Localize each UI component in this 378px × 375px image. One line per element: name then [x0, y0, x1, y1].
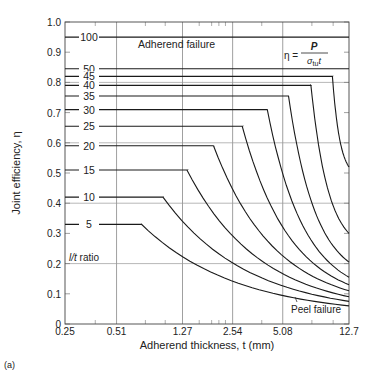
curve-label: 35 — [83, 90, 95, 102]
curve-label: 100 — [80, 31, 98, 43]
curve-lt-10 — [65, 197, 349, 301]
x-tick-label: 2.54 — [223, 326, 243, 337]
x-tick-label: 0.25 — [55, 326, 75, 337]
x-tick-label: 12.7 — [339, 326, 359, 337]
plot-frame — [65, 22, 349, 324]
y-tick-label: 0.9 — [47, 47, 61, 58]
x-tick-labels: 0.250.511.272.545.0812.7 — [55, 326, 359, 337]
curve-label: 30 — [83, 104, 95, 116]
panel-label: (a) — [4, 360, 15, 370]
y-tick-label: 1.0 — [47, 17, 61, 28]
curve-lt-30 — [65, 110, 349, 278]
y-tick-label: 0.2 — [47, 259, 61, 270]
x-axis-title: Adherend thickness, t (mm) — [140, 339, 275, 351]
curve-lt-35 — [65, 96, 349, 262]
y-tick-label: 0.1 — [47, 289, 61, 300]
x-tick-label: 0.51 — [107, 326, 127, 337]
curve-label: 10 — [83, 191, 95, 203]
curve-lt-5 — [65, 224, 349, 306]
curve-label: 15 — [83, 164, 95, 176]
peel-failure-label: Peel failure — [291, 304, 341, 315]
efficiency-formula: η = P σtut — [284, 41, 328, 67]
y-tick-label: 0.3 — [47, 228, 61, 239]
joint-efficiency-chart: 1005045403530252015105 00.10.20.30.40.50… — [0, 0, 378, 375]
y-axis-title: Joint efficiency, η — [10, 131, 22, 214]
curve-lt-25 — [65, 126, 349, 285]
svg-text:η =: η = — [284, 50, 298, 61]
curve-label: 20 — [83, 140, 95, 152]
grid-lines — [65, 22, 349, 324]
curve-label: 25 — [83, 120, 95, 132]
x-tick-label: 5.08 — [273, 326, 293, 337]
y-tick-label: 0.7 — [47, 108, 61, 119]
lt-ratio-label: l/t ratio — [69, 252, 99, 263]
curve-lt-40 — [65, 85, 349, 233]
curve-series: 1005045403530252015105 — [65, 31, 349, 306]
svg-text:P: P — [311, 41, 318, 52]
y-tick-label: 0.5 — [47, 168, 61, 179]
axis-ticks — [65, 22, 349, 324]
y-tick-label: 0.8 — [47, 77, 61, 88]
curve-lt-45 — [65, 76, 349, 167]
y-tick-label: 0.4 — [47, 198, 61, 209]
formula-denominator: σtut — [307, 56, 321, 67]
x-tick-label: 1.27 — [173, 326, 193, 337]
curve-lt-20 — [65, 146, 349, 291]
curve-label: 5 — [86, 218, 92, 230]
adherend-failure-label: Adherend failure — [138, 38, 215, 50]
y-tick-labels: 00.10.20.30.40.50.60.70.80.91.0 — [47, 17, 61, 330]
y-tick-label: 0.6 — [47, 138, 61, 149]
